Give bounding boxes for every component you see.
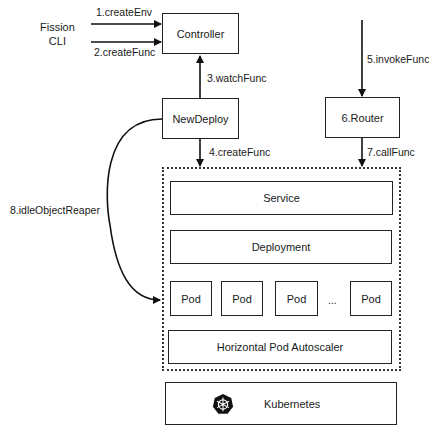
label-create-func-cli: 2.createFunc [94,46,155,58]
label-create-func-k8s: 4.createFunc [209,146,270,158]
newdeploy-node: NewDeploy [162,98,239,139]
kubernetes-helm-wheel-icon [212,393,234,415]
kubernetes-label: Kubernetes [264,398,320,410]
fission-cli-label: Fission CLI [40,20,75,48]
pod-node: Pod [221,281,263,316]
label-call-func: 7.callFunc [367,146,415,158]
pod-node: Pod [350,281,392,316]
label-create-env: 1.createEnv [96,6,152,18]
edge-idle-object-reaper [107,119,162,300]
label-invoke-func: 5.invokeFunc [367,53,429,65]
label-watch-func: 3.watchFunc [207,72,267,84]
deployment-node: Deployment [170,230,392,264]
pod-node: Pod [275,281,318,316]
router-node: 6.Router [325,97,400,138]
fission-cli-line1: Fission [40,20,75,34]
service-node: Service [170,181,393,215]
fission-cli-line2: CLI [40,34,75,48]
controller-node: Controller [162,13,239,54]
label-idle-object-reaper: 8.idleObjectReaper [10,204,100,216]
pods-ellipsis: ... [328,294,337,306]
hpa-node: Horizontal Pod Autoscaler [168,330,392,364]
kubernetes-node: Kubernetes [165,382,397,425]
pod-node: Pod [170,281,212,316]
